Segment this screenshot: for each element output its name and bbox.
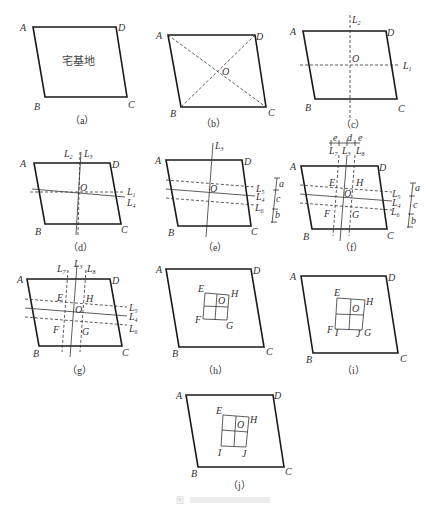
vertex-d: D [243, 156, 252, 167]
vertex-a: A [16, 274, 24, 285]
point-e: E [215, 405, 222, 416]
vertex-b: B [34, 101, 40, 112]
vertex-d: D [252, 265, 261, 276]
vertex-c: C [398, 103, 405, 114]
line-l6: L6 [254, 202, 264, 214]
point-f: F [52, 324, 60, 335]
vertex-b: B [305, 102, 311, 113]
figure-caption-faint-text [190, 497, 270, 503]
panel-d-caption: （d） [68, 242, 93, 253]
line-l3: L3 [83, 148, 93, 160]
point-j: J [242, 448, 247, 459]
point-e: E [333, 287, 340, 298]
vertex-d: D [117, 22, 126, 33]
vertex-b: B [168, 227, 174, 238]
vertex-d: D [378, 162, 387, 173]
panel-f-caption: （f） [340, 242, 363, 253]
point-h: H [249, 414, 258, 425]
vertex-b: B [170, 108, 176, 119]
vertex-a: A [155, 264, 163, 275]
center-o: O [210, 183, 217, 194]
dimension-a: a [279, 178, 284, 189]
vertex-c: C [387, 230, 394, 241]
dimension-b: b [411, 215, 416, 226]
figure-caption: 图 [176, 496, 184, 505]
dimension-a: a [415, 182, 420, 193]
vertex-c: C [128, 99, 135, 110]
dimension-d: d [347, 132, 353, 143]
vertex-a: A [175, 390, 183, 401]
vertex-b: B [191, 468, 197, 479]
panel-b-caption: （b） [201, 118, 226, 129]
vertex-a: A [289, 271, 297, 282]
vertex-c: C [266, 346, 273, 357]
center-o: O [237, 419, 244, 430]
panel-j-caption: （j） [228, 480, 251, 491]
point-h: H [355, 177, 364, 188]
vertex-a: A [19, 22, 27, 33]
point-e: E [328, 177, 335, 188]
point-e: E [56, 292, 63, 303]
vertex-c: C [251, 226, 258, 237]
point-f: F [323, 208, 331, 219]
line-l6: L6 [128, 323, 138, 335]
point-f: F [326, 324, 334, 335]
panel-i: A D B C O E H F I J G （i） [289, 271, 407, 376]
panel-a: A D B C 宅基地 （a） [19, 22, 135, 126]
panel-h-caption: （h） [203, 365, 228, 376]
dimension-c: c [276, 193, 281, 204]
point-j: J [356, 328, 361, 339]
vertex-c: C [400, 353, 407, 364]
line-l1: L1 [402, 60, 412, 72]
vertex-b: B [33, 348, 39, 359]
vertex-d: D [255, 31, 264, 42]
vertex-c: C [285, 466, 292, 477]
vertex-d: D [386, 27, 395, 38]
dimension-b: b [275, 209, 280, 220]
vertex-a: A [289, 26, 297, 37]
panel-g: A D B C O E H F G L7 L3 L8 L5 L4 L6 （g） [16, 258, 138, 376]
panel-c-caption: （c） [341, 119, 365, 130]
panel-e-caption: （e） [203, 242, 227, 253]
line-l4: L4 [126, 197, 136, 209]
homestead-label: 宅基地 [62, 54, 95, 68]
panel-i-caption: （i） [342, 365, 365, 376]
vertex-d: D [387, 272, 396, 283]
point-i: I [217, 447, 222, 458]
center-o: O [218, 295, 225, 306]
point-f: F [194, 314, 202, 325]
vertex-b: B [306, 354, 312, 365]
panel-d: A D B C O L2 L3 L1 L4 （d） [19, 148, 136, 253]
center-o: O [344, 188, 351, 199]
vertex-a: A [19, 158, 27, 169]
panel-b: A D B C O （b） [155, 30, 275, 129]
vertex-b: B [35, 226, 41, 237]
vertex-d: D [273, 390, 282, 401]
center-o: O [75, 304, 82, 315]
point-g: G [226, 320, 233, 331]
point-h: H [85, 293, 94, 304]
point-g: G [352, 209, 359, 220]
point-h: H [365, 296, 374, 307]
vertex-a: A [154, 155, 162, 166]
panel-c: A D B C O L2 L1 （c） [289, 14, 412, 130]
line-l3: L3 [214, 140, 224, 152]
line-l3: L3 [341, 145, 351, 157]
vertex-c: C [122, 347, 129, 358]
dimension-c: c [413, 199, 418, 210]
line-l8: L8 [355, 145, 365, 157]
point-g: G [82, 326, 89, 337]
panel-f: A D B C O E H F G L7 L3 L8 e d e L5 L4 L… [289, 132, 420, 253]
center-o: O [222, 66, 229, 77]
panel-a-caption: （a） [70, 115, 94, 126]
center-o: O [80, 182, 87, 193]
panel-h: A D B C O E H F G （h） [155, 264, 273, 376]
line-l8: L8 [86, 263, 96, 275]
panel-j: A D B C O E H I J （j） [175, 390, 292, 491]
vertex-a: A [289, 161, 297, 172]
point-e: E [197, 283, 204, 294]
vertex-a: A [155, 30, 163, 41]
dimension-e-right: e [358, 132, 363, 143]
vertex-c: C [121, 224, 128, 235]
panel-e: A D B C O L3 L5 L4 L6 a c b （e） [154, 140, 284, 253]
